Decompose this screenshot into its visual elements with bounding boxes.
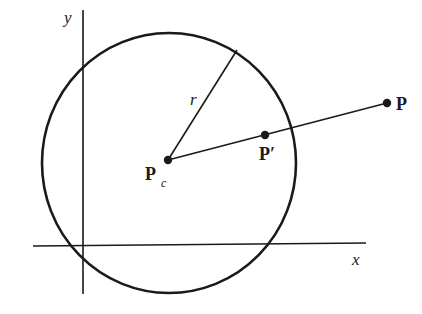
diagram-svg: y x r P c P′ P [0,0,422,314]
radius-line [168,50,237,160]
diagram-canvas: y x r P c P′ P [0,0,422,314]
external-point-label: P [396,94,407,114]
projected-point-dot [261,131,269,139]
center-point-label: P [145,164,156,184]
center-point-dot [164,156,172,164]
y-axis-label: y [62,8,72,27]
projection-line [168,103,387,160]
center-point-subscript: c [161,176,167,190]
external-point-dot [383,99,391,107]
x-axis-label: x [351,250,360,269]
projected-point-label: P′ [259,144,275,164]
radius-label: r [190,90,197,109]
